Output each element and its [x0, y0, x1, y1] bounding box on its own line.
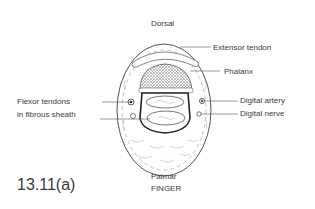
- label-flexor-tendons: Flexor tendons: [17, 97, 70, 107]
- digital-nerve-right: [197, 112, 201, 116]
- label-digital-nerve: Digital nerve: [240, 109, 284, 119]
- label-dorsal: Dorsal: [151, 19, 174, 29]
- digital-nerve-left: [131, 114, 136, 119]
- label-palmar: Palmar: [151, 172, 176, 182]
- label-extensor-tendon: Extensor tendon: [213, 43, 271, 53]
- figure-number: 13.11(a): [17, 176, 75, 194]
- label-fibrous-sheath: in fibrous sheath: [17, 110, 76, 120]
- label-finger: FINGER: [151, 184, 181, 194]
- label-digital-artery: Digital artery: [240, 96, 285, 106]
- finger-cross-section-diagram: Dorsal Extensor tendon Phalanx Flexor te…: [0, 0, 315, 209]
- label-phalanx: Phalanx: [224, 67, 253, 77]
